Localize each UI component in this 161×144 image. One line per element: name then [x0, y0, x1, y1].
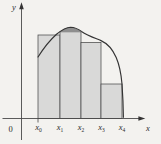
x-axis-label: x: [145, 123, 150, 133]
rectangle-4: [101, 84, 122, 119]
rectangle-3: [81, 43, 101, 119]
x-axis-arrowhead-icon: [138, 116, 145, 121]
riemann-rectangles: [38, 32, 122, 119]
tick-label-x4: x4: [118, 122, 126, 133]
y-axis-arrowhead-icon: [19, 2, 24, 9]
tick-label-x3: x3: [97, 122, 105, 133]
origin-label: 0: [9, 124, 13, 134]
riemann-sum-figure: y x 0 x0 x1 x2 x3 x4: [0, 0, 161, 144]
y-axis-label: y: [11, 2, 16, 12]
figure-canvas: y x 0 x0 x1 x2 x3 x4: [0, 0, 161, 144]
tick-label-x2: x2: [77, 122, 85, 133]
tick-label-x0: x0: [34, 122, 42, 133]
rectangle-2: [60, 32, 81, 119]
tick-label-x1: x1: [56, 122, 64, 133]
rectangle-1: [38, 35, 60, 119]
